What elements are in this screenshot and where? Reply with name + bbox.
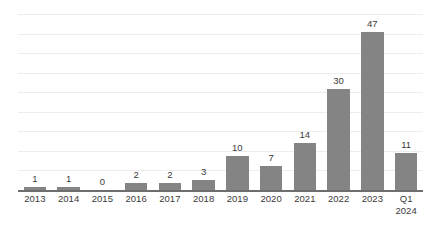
x-axis-tick-label: 2017: [153, 193, 187, 217]
x-axis-tick-label-line: 2018: [187, 193, 221, 205]
x-axis-tick-label: Q12024: [389, 193, 423, 217]
x-axis-tick-label: 2022: [322, 193, 356, 217]
x-axis-tick-label: 2016: [119, 193, 153, 217]
x-axis-line: [18, 190, 423, 192]
x-axis-tick-label: 2013: [18, 193, 52, 217]
bar-group: 1: [52, 8, 86, 190]
bar-group: 14: [288, 8, 322, 190]
bar-value-label: 3: [201, 166, 206, 177]
bar[interactable]: [395, 153, 417, 190]
bar[interactable]: [125, 183, 147, 190]
bar-value-label: 1: [32, 173, 37, 184]
x-axis-tick-label-line: Q1: [389, 193, 423, 205]
bar-group: 7: [254, 8, 288, 190]
x-axis-tick-label-line: 2019: [221, 193, 255, 205]
bar-group: 3: [187, 8, 221, 190]
bar-value-label: 10: [232, 142, 243, 153]
bar-group: 2: [119, 8, 153, 190]
bar[interactable]: [260, 166, 282, 190]
bar-group: 47: [356, 8, 390, 190]
x-axis-tick-label-line: 2014: [52, 193, 86, 205]
bar-value-label: 7: [268, 152, 273, 163]
bar-group: 30: [322, 8, 356, 190]
bar[interactable]: [327, 89, 349, 190]
bar-group: 10: [221, 8, 255, 190]
x-axis-tick-label-line: 2017: [153, 193, 187, 205]
bar-value-label: 2: [167, 169, 172, 180]
bar-value-label: 30: [333, 75, 344, 86]
x-axis-category-labels: 2013201420152016201720182019202020212022…: [18, 193, 423, 217]
x-axis-tick-label-line: 2024: [389, 205, 423, 217]
bar-value-label: 2: [133, 169, 138, 180]
bar[interactable]: [159, 183, 181, 190]
x-axis-tick-label: 2015: [86, 193, 120, 217]
x-axis-tick-label-line: 2020: [254, 193, 288, 205]
x-axis-tick-label: 2020: [254, 193, 288, 217]
bar-value-label: 14: [300, 129, 311, 140]
bar-value-label: 47: [367, 18, 378, 29]
x-axis-tick-label: 2019: [221, 193, 255, 217]
bar[interactable]: [192, 180, 214, 190]
bar[interactable]: [226, 156, 248, 190]
x-axis-tick-label-line: 2022: [322, 193, 356, 205]
x-axis-tick-label-line: 2013: [18, 193, 52, 205]
bar-value-label: 1: [66, 173, 71, 184]
x-axis-tick-label-line: 2021: [288, 193, 322, 205]
x-axis-tick-label: 2021: [288, 193, 322, 217]
bar-value-label: 0: [100, 176, 105, 187]
bar-group: 0: [86, 8, 120, 190]
bar-group: 11: [389, 8, 423, 190]
bar-chart: 11022310714304711 2013201420152016201720…: [0, 0, 438, 229]
bar[interactable]: [361, 32, 383, 190]
x-axis-tick-label: 2023: [356, 193, 390, 217]
bar-group: 2: [153, 8, 187, 190]
x-axis-tick-label: 2014: [52, 193, 86, 217]
bar[interactable]: [294, 143, 316, 190]
bar-group: 1: [18, 8, 52, 190]
x-axis-tick-label-line: 2015: [86, 193, 120, 205]
x-axis-tick-label-line: 2016: [119, 193, 153, 205]
bar-value-label: 11: [401, 139, 411, 150]
x-axis-tick-label-line: 2023: [356, 193, 390, 205]
x-axis-tick-label: 2018: [187, 193, 221, 217]
plot-area: 11022310714304711: [18, 8, 423, 190]
